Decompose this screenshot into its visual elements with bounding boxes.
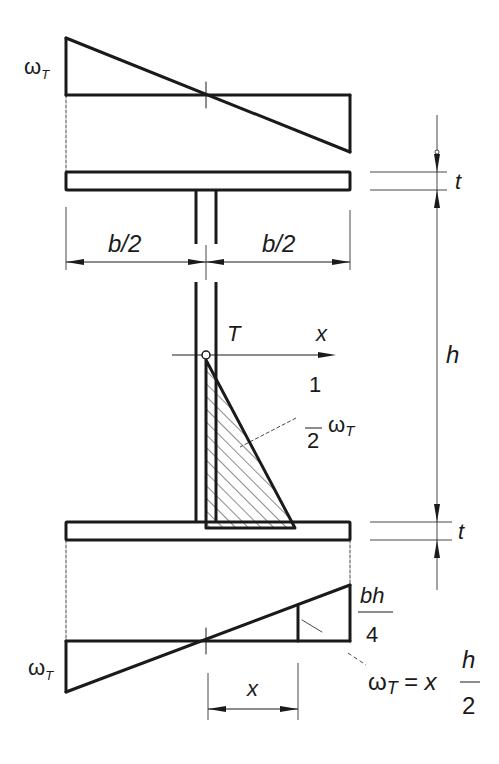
bottom-omega-diagram — [66, 540, 350, 692]
x-axis-label: x — [315, 321, 328, 346]
svg-text:4: 4 — [366, 622, 378, 647]
top-flange — [66, 172, 350, 190]
top-omega-diagram — [66, 38, 350, 172]
svg-text:bh: bh — [360, 583, 384, 608]
shear-centre-label: T — [227, 321, 242, 346]
max-omega-label: bh 4 — [358, 583, 393, 647]
height-label: h — [446, 341, 459, 368]
hatched-omega-area — [206, 360, 295, 528]
i-section-diagram: ωT b/2 b/2 T x 1 2 ωT — [0, 0, 499, 764]
svg-text:2: 2 — [307, 428, 319, 453]
formula-leader — [348, 653, 366, 665]
half-omega-label: 1 2 ωT — [305, 372, 356, 453]
shear-centre-point — [202, 351, 210, 359]
svg-text:2: 2 — [462, 692, 475, 719]
omega-top-label: ωT — [24, 54, 50, 82]
svg-text:ωT= x: ωT= x — [368, 668, 437, 698]
svg-text:h: h — [462, 646, 475, 673]
height-dimension — [370, 115, 452, 590]
svg-text:1: 1 — [309, 372, 321, 397]
omega-formula: ωT= x h 2 — [368, 646, 480, 719]
flange-thickness-top-label: t — [455, 169, 462, 194]
x-dimension-label: x — [246, 676, 259, 701]
half-width-right-label: b/2 — [262, 230, 295, 257]
flange-thickness-bottom-label: t — [458, 519, 465, 544]
omega-bottom-label: ωT — [28, 655, 54, 683]
svg-text:ωT: ωT — [328, 412, 356, 439]
half-width-left-label: b/2 — [108, 230, 141, 257]
